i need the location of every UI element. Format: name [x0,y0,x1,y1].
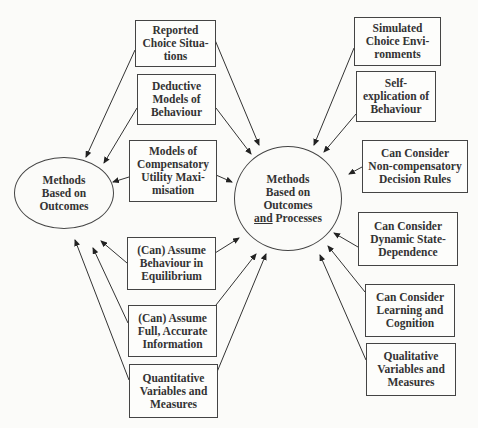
box-label-line: Choice Envi- [366,35,430,48]
arrow-compensatory-to-outcomes [113,177,129,182]
box-label-line: Non-compensatory [368,160,461,173]
node-label-line: Methods [254,173,322,186]
node-label-line: and Processes [254,212,322,225]
box-reported-choice-situations: Reported Choice Situa- tions [135,20,216,67]
box-label-line: Measures [140,398,208,411]
box-label-line: Simulated [366,22,430,35]
arrow-reported-to-processes [215,40,259,145]
arrow-equilibrium-to-outcomes [101,241,127,263]
arrow-fullinfo-to-processes [216,254,256,305]
box-label-line: Decision Rules [368,173,461,186]
box-label-line: Quantitative [140,372,208,385]
box-label-line: Self- [363,77,429,90]
node-label-line: Outcomes [254,199,322,212]
box-label-line: Can Consider [376,291,444,304]
box-non-compensatory-rules: Can Consider Non-compensatory Decision R… [362,140,468,193]
box-label-line: Behaviour [151,106,202,119]
box-label-line: Deductive [151,80,202,93]
box-label-line: (Can) Assume [137,244,206,257]
box-label-line: Full, Accurate [138,325,208,338]
box-assume-equilibrium: (Can) Assume Behaviour in Equilibrium [127,237,216,290]
box-label-line: Reported [142,24,208,37]
node-methods-based-on-outcomes: Methods Based on Outcomes [14,157,114,229]
box-label-line: Compensatory [137,158,209,171]
box-label-line: Dynamic State- [370,233,446,246]
box-label-line: explication of [363,90,429,103]
arrow-simulated-to-processes [314,48,354,145]
node-label-line: Methods [39,174,88,187]
box-label-line: Variables and [140,385,208,398]
box-self-explication: Self- explication of Behaviour [356,71,436,122]
node-label-line: Based on [254,186,322,199]
box-label-line: Learning and [376,304,444,317]
box-label-line: (Can) Assume [138,312,208,325]
box-quantitative-variables: Quantitative Variables and Measures [129,364,218,418]
underlined-and: and [254,212,273,224]
box-label-line: misation [137,184,209,197]
arrow-reported-to-outcomes [86,50,135,157]
box-learning-cognition: Can Consider Learning and Cognition [365,284,455,337]
box-label-line: Equilibrium [137,270,206,283]
processes-text: Processes [273,212,322,224]
box-label-line: Can Consider [368,147,461,160]
box-dynamic-state-dependence: Can Consider Dynamic State- Dependence [358,212,458,266]
box-label-line: tions [142,50,208,63]
node-methods-based-on-outcomes-and-processes: Methods Based on Outcomes and Processes [234,146,342,251]
arrow-qualitative-to-processes [320,255,366,360]
arrow-dynamic-to-processes [334,233,358,247]
box-label-line: Behaviour [363,103,429,116]
box-qualitative-variables: Qualitative Variables and Measures [366,343,456,396]
box-label-line: Models of [151,93,202,106]
box-label-line: Qualitative [377,350,445,363]
box-label-line: Information [138,338,208,351]
arrow-noncompensatory-to-processes [349,167,362,174]
node-label-line: Based on [39,187,88,200]
arrow-compensatory-to-processes [216,175,232,182]
box-simulated-choice-environments: Simulated Choice Envi- ronments [354,17,441,66]
box-compensatory-utility: Models of Compensatory Utility Maxi- mis… [129,140,217,202]
box-label-line: Models of [137,145,209,158]
arrow-deductive-to-processes [216,108,251,154]
box-label-line: Measures [377,376,445,389]
box-label-line: Behaviour in [137,257,206,270]
box-label-line: ronments [366,48,430,61]
box-deductive-models: Deductive Models of Behaviour [137,74,216,125]
node-label-line: Outcomes [39,200,88,213]
box-label-line: Cognition [376,317,444,330]
box-label-line: Variables and [377,363,445,376]
arrow-equilibrium-to-processes [215,238,239,253]
box-assume-full-information: (Can) Assume Full, Accurate Information [128,305,217,357]
arrow-quantitative-to-outcomes [75,240,129,380]
diagram-canvas: Methods Based on Outcomes Methods Based … [0,0,478,428]
box-label-line: Dependence [370,246,446,259]
box-label-line: Utility Maxi- [137,171,209,184]
box-label-line: Can Consider [370,220,446,233]
box-label-line: Choice Situa- [142,37,208,50]
arrow-selfexplication-to-processes [324,114,356,152]
